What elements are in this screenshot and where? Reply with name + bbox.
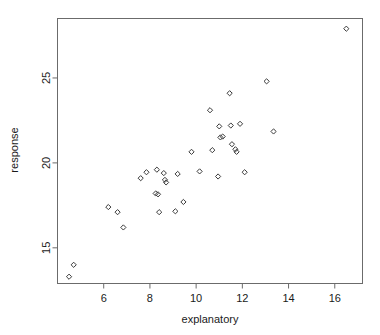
plot-svg: 152025 6810121416 explanatory response [0,0,380,335]
x-tick-label: 16 [329,292,341,304]
x-tick-label: 14 [282,292,294,304]
x-tick-label: 6 [101,292,107,304]
y-tick-label: 15 [41,242,53,254]
y-axis-label: response [8,127,20,172]
scatter-plot-figure: 152025 6810121416 explanatory response [0,0,380,335]
y-tick-label: 25 [41,72,53,84]
x-axis-label: explanatory [182,313,239,325]
plot-canvas: 152025 6810121416 explanatory response [0,0,380,335]
y-tick-label: 20 [41,157,53,169]
x-tick-label: 8 [147,292,153,304]
x-tick-label: 12 [236,292,248,304]
x-tick-label: 10 [190,292,202,304]
